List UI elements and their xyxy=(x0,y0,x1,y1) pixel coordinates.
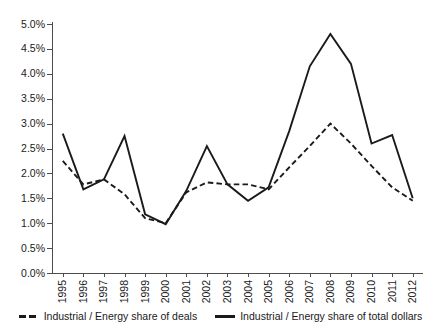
x-tick-mark xyxy=(351,273,352,277)
series-line-total-dollars xyxy=(63,34,413,224)
series-line-deals xyxy=(63,124,413,224)
x-tick-label: 2001 xyxy=(181,280,192,303)
y-tick-mark xyxy=(47,273,52,274)
x-tick-label: 2004 xyxy=(243,280,254,303)
x-tick-label: 2000 xyxy=(160,280,171,303)
x-tick-mark xyxy=(289,273,290,277)
x-tick-mark xyxy=(413,273,414,277)
x-tick-mark xyxy=(125,273,126,277)
x-tick-label: 2006 xyxy=(284,280,295,303)
x-tick-label: 2012 xyxy=(407,280,418,303)
x-tick-mark xyxy=(227,273,228,277)
x-tick-mark xyxy=(372,273,373,277)
y-tick-mark xyxy=(47,198,52,199)
x-tick-mark xyxy=(392,273,393,277)
x-tick-label: 1999 xyxy=(140,280,151,303)
legend-label: Industrial / Energy share of deals xyxy=(44,310,198,322)
x-tick-label: 2003 xyxy=(222,280,233,303)
y-tick-mark xyxy=(47,173,52,174)
legend-entry[interactable]: Industrial / Energy share of deals xyxy=(19,310,198,322)
y-tick-mark xyxy=(47,223,52,224)
x-tick-mark xyxy=(104,273,105,277)
x-tick-mark xyxy=(269,273,270,277)
y-tick-mark xyxy=(47,149,52,150)
x-tick-mark xyxy=(63,273,64,277)
solid-line-icon xyxy=(215,315,235,318)
x-tick-label: 2010 xyxy=(366,280,377,303)
y-tick-mark xyxy=(47,124,52,125)
y-tick-mark xyxy=(47,99,52,100)
x-tick-label: 2005 xyxy=(263,280,274,303)
x-tick-label: 1998 xyxy=(119,280,130,303)
legend-entry[interactable]: Industrial / Energy share of total dolla… xyxy=(215,310,422,322)
x-tick-label: 2002 xyxy=(201,280,212,303)
x-tick-label: 2009 xyxy=(345,280,356,303)
x-tick-label: 1995 xyxy=(57,280,68,303)
chart-figure: 0.0%0.5%1.0%1.5%2.0%2.5%3.0%3.5%4.0%4.5%… xyxy=(0,0,441,331)
x-tick-label: 2011 xyxy=(387,280,398,303)
x-tick-label: 1996 xyxy=(78,280,89,303)
x-tick-mark xyxy=(207,273,208,277)
x-tick-label: 2007 xyxy=(304,280,315,303)
x-tick-label: 2008 xyxy=(325,280,336,303)
dashed-line-icon xyxy=(19,315,39,318)
x-tick-mark xyxy=(186,273,187,277)
x-tick-mark xyxy=(248,273,249,277)
x-tick-mark xyxy=(83,273,84,277)
x-tick-mark xyxy=(145,273,146,277)
y-tick-mark xyxy=(47,248,52,249)
x-tick-mark xyxy=(310,273,311,277)
x-tick-label: 1997 xyxy=(98,280,109,303)
x-tick-mark xyxy=(330,273,331,277)
y-tick-mark xyxy=(47,74,52,75)
y-tick-mark xyxy=(47,49,52,50)
chart-legend: Industrial / Energy share of dealsIndust… xyxy=(0,306,441,326)
x-tick-mark xyxy=(166,273,167,277)
y-tick-mark xyxy=(47,24,52,25)
legend-label: Industrial / Energy share of total dolla… xyxy=(240,310,422,322)
